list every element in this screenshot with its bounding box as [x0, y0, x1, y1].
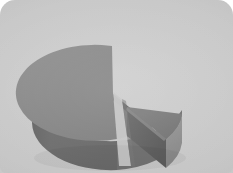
pie-chart-graphic: [0, 0, 233, 173]
pie-chart-icon-panel[interactable]: [0, 0, 233, 173]
pie-drop-shadow: [34, 145, 186, 171]
